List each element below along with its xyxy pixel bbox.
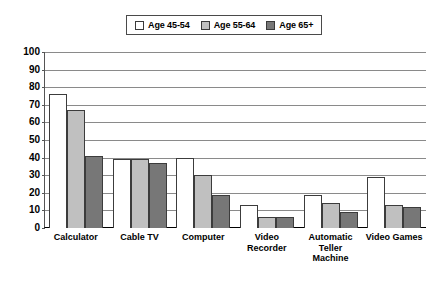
bar <box>322 203 340 228</box>
bars-layer <box>44 52 426 228</box>
legend-label-age-65-plus: Age 65+ <box>279 21 313 30</box>
y-axis-tick-label: 0 <box>0 223 40 233</box>
bar-group <box>108 52 172 228</box>
bar <box>212 195 230 228</box>
bar <box>385 205 403 228</box>
bar <box>276 217 294 228</box>
bar-group <box>235 52 299 228</box>
legend-label-age-45-54: Age 45-54 <box>148 21 190 30</box>
y-axis-tick-label: 100 <box>0 47 40 57</box>
y-axis-tick-label: 20 <box>0 188 40 198</box>
y-axis-tick-label: 90 <box>0 65 40 75</box>
y-axis-tick-label: 30 <box>0 170 40 180</box>
bar <box>340 212 358 228</box>
x-axis-category-label: Cable TV <box>108 232 172 264</box>
y-axis-tick-label: 60 <box>0 117 40 127</box>
bar <box>367 177 385 228</box>
y-axis-tick-label: 70 <box>0 100 40 110</box>
bar-chart: Age 45-54 Age 55-64 Age 65+ 100908070605… <box>0 0 441 292</box>
bar <box>194 175 212 228</box>
legend-swatch-icon-age-55-64 <box>201 21 210 30</box>
bar <box>403 207 421 228</box>
bar <box>49 94 67 228</box>
legend-swatch-icon-age-45-54 <box>135 21 144 30</box>
bar <box>113 159 131 228</box>
bar-group <box>171 52 235 228</box>
y-axis: 1009080706050403020100 <box>0 52 40 228</box>
y-axis-tick <box>42 228 45 229</box>
bar <box>149 163 167 228</box>
legend-item-age-45-54: Age 45-54 <box>135 21 190 30</box>
y-axis-tick-label: 80 <box>0 82 40 92</box>
bar-group <box>299 52 363 228</box>
legend-item-age-65-plus: Age 65+ <box>266 21 313 30</box>
bar <box>304 195 322 228</box>
y-axis-tick-label: 10 <box>0 205 40 215</box>
legend-swatch-icon-age-65-plus <box>266 21 275 30</box>
bar <box>85 156 103 228</box>
bar <box>240 205 258 228</box>
chart-legend: Age 45-54 Age 55-64 Age 65+ <box>126 15 322 35</box>
bar <box>131 159 149 228</box>
y-axis-tick-label: 50 <box>0 135 40 145</box>
bar <box>258 217 276 228</box>
legend-item-age-55-64: Age 55-64 <box>201 21 256 30</box>
x-axis-category-label: Calculator <box>44 232 108 264</box>
x-axis-category-label: Computer <box>171 232 235 264</box>
x-axis-category-label: Video Games <box>362 232 426 264</box>
x-axis-category-label: Video Recorder <box>235 232 299 264</box>
bar <box>176 158 194 228</box>
bar-group <box>44 52 108 228</box>
legend-label-age-55-64: Age 55-64 <box>214 21 256 30</box>
bar-group <box>362 52 426 228</box>
x-axis-category-label: Automatic Teller Machine <box>299 232 363 264</box>
x-axis: CalculatorCable TVComputerVideo Recorder… <box>44 232 426 264</box>
y-axis-tick-label: 40 <box>0 153 40 163</box>
bar <box>67 110 85 228</box>
